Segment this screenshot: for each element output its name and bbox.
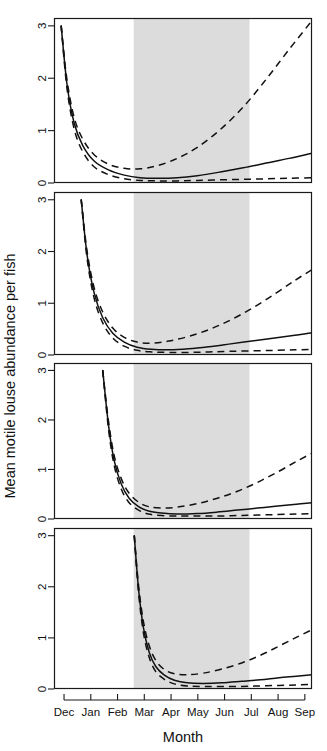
- x-tick-label-mar: Mar: [134, 706, 154, 718]
- y-tick-label: 1: [36, 466, 48, 472]
- y-tick-label: 0: [36, 352, 48, 358]
- shaded-period-band: [134, 364, 250, 519]
- x-axis-title: Month: [163, 729, 203, 745]
- y-tick-label: 0: [36, 686, 48, 692]
- x-tick-label-jun: Jun: [215, 706, 234, 718]
- figure-root: 0123012301230123 DecJanFebMarAprMayJunJu…: [0, 0, 327, 751]
- x-tick-label-sep: Sep: [295, 706, 315, 718]
- multi-panel-line-chart: 0123012301230123 DecJanFebMarAprMayJunJu…: [0, 0, 327, 751]
- shaded-period-band: [134, 193, 250, 355]
- y-tick-label: 0: [36, 180, 48, 186]
- y-tick-label: 1: [36, 300, 48, 306]
- x-axis-title-text: Month: [163, 729, 203, 745]
- x-tick-label-feb: Feb: [108, 706, 128, 718]
- y-tick-label: 1: [36, 127, 48, 133]
- x-tick-label-jul: Jul: [244, 706, 259, 718]
- y-tick-label: 3: [36, 197, 48, 203]
- shaded-period-band: [134, 529, 250, 689]
- x-tick-label-may: May: [187, 706, 209, 718]
- x-tick-label-dec: Dec: [54, 706, 75, 718]
- y-tick-label: 0: [36, 516, 48, 522]
- y-axis-title: Mean motile louse abundance per fish: [2, 253, 18, 498]
- y-tick-label: 2: [36, 417, 48, 423]
- shaded-period-band: [134, 19, 250, 183]
- x-tick-label-aug: Aug: [268, 706, 288, 718]
- x-tick-label-apr: Apr: [162, 706, 180, 718]
- y-tick-label: 3: [36, 532, 48, 538]
- y-tick-label: 2: [36, 248, 48, 254]
- y-tick-label: 2: [36, 75, 48, 81]
- y-tick-label: 3: [36, 23, 48, 29]
- y-tick-label: 3: [36, 367, 48, 373]
- x-tick-label-jan: Jan: [82, 706, 101, 718]
- y-tick-label: 1: [36, 635, 48, 641]
- y-tick-label: 2: [36, 584, 48, 590]
- y-axis-title-text: Mean motile louse abundance per fish: [2, 253, 18, 498]
